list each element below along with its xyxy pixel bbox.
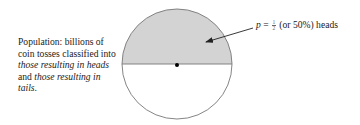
population-caption: Population: billions of coin tosses clas… <box>18 36 118 94</box>
proportion-label: p =12(or 50%) heads <box>256 19 338 31</box>
center-dot <box>175 63 179 67</box>
heads-half-region <box>122 9 232 64</box>
caption-text-1: Population: billions of coin tosses clas… <box>18 36 116 59</box>
proportion-fraction: 12 <box>272 20 277 31</box>
caption-heads-phrase: those resulting in heads <box>18 59 109 70</box>
proportion-equals: = <box>261 19 269 30</box>
tails-half-region <box>122 64 232 119</box>
caption-text-3: . <box>35 82 37 93</box>
caption-text-2: and <box>18 71 34 82</box>
fraction-denominator: 2 <box>272 26 277 31</box>
proportion-description: (or 50%) heads <box>279 19 338 30</box>
